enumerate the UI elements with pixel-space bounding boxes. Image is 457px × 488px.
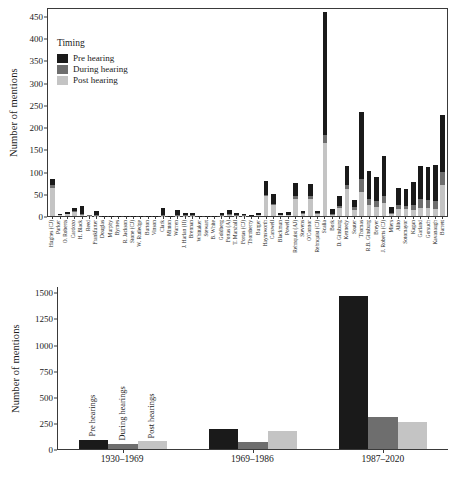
stacked-bar[interactable] <box>426 167 431 216</box>
bottom-chart-x-ticks <box>58 449 448 453</box>
stacked-bar[interactable] <box>433 165 438 216</box>
x-tick <box>71 216 78 219</box>
bar[interactable]: Post hearings <box>138 441 167 449</box>
bar-slot <box>204 9 211 216</box>
bar[interactable] <box>238 442 267 449</box>
bottom-chart-x-axis-labels: 1930–19691969–19861987–2020 <box>57 455 448 465</box>
x-axis-label-text: J. Roberts (CJ) <box>382 220 387 252</box>
y-tick-mark <box>44 83 47 84</box>
stacked-bar[interactable] <box>264 181 269 216</box>
stacked-bar[interactable] <box>352 200 357 216</box>
bar-segment <box>345 189 350 216</box>
x-tick <box>211 216 218 219</box>
stacked-bar[interactable] <box>411 182 416 216</box>
x-axis-label-text: Rehnquist (CJ) <box>315 220 320 253</box>
bottom-y-axis-label: Number of mentions <box>10 287 24 450</box>
x-tick <box>373 216 380 219</box>
x-axis-label: Souter <box>351 220 358 278</box>
x-axis-label-text: Byrnes <box>116 220 121 235</box>
bar-slot <box>285 9 292 216</box>
bar-segment <box>337 208 342 216</box>
bar-slot <box>152 9 159 216</box>
x-tick <box>188 449 318 453</box>
bar-slot <box>432 9 439 216</box>
bar-segment <box>404 189 409 206</box>
x-axis-label: Miers <box>388 220 395 278</box>
bar-segment <box>264 181 269 194</box>
x-axis-label-text: R.B. Ginsburg <box>367 220 372 251</box>
x-tick <box>101 216 108 219</box>
x-tick <box>218 216 225 219</box>
stacked-bar[interactable] <box>330 209 335 216</box>
x-tick <box>49 216 56 219</box>
bar-segment <box>374 207 379 216</box>
stacked-bar[interactable] <box>50 179 55 216</box>
x-axis-label: Reed <box>85 220 92 278</box>
bar-slot <box>388 9 395 216</box>
x-axis-label-text: Carswell <box>271 220 276 239</box>
x-axis-label-text: J. Harlan (II) <box>182 220 187 248</box>
x-tick <box>388 216 395 219</box>
stacked-bar[interactable] <box>382 156 387 216</box>
x-axis-label: Clark <box>159 220 166 278</box>
x-axis-label: Burger <box>255 220 262 278</box>
bar-segment <box>433 165 438 201</box>
stacked-bar[interactable] <box>389 207 394 216</box>
stacked-bar[interactable] <box>374 177 379 216</box>
stacked-bar[interactable] <box>359 112 364 216</box>
x-axis-label-text: Frankfurter <box>93 220 98 245</box>
stacked-bar[interactable] <box>367 171 372 216</box>
x-axis-label-text: O'Connor <box>308 220 313 241</box>
x-tick <box>78 216 85 219</box>
x-axis-label: W. Rutledge <box>137 220 144 278</box>
legend: Timing Pre hearingDuring hearingPost hea… <box>57 39 128 87</box>
bar[interactable] <box>209 429 238 449</box>
bar-segment <box>440 172 445 184</box>
stacked-bar[interactable] <box>271 194 276 216</box>
bar-slot <box>218 9 225 216</box>
bar-group <box>188 287 318 449</box>
x-tick <box>432 216 439 219</box>
bar[interactable] <box>368 417 397 449</box>
x-axis-label-text: Stevens <box>300 220 305 237</box>
bar-group: Pre hearingsDuring hearingsPost hearings <box>58 287 188 449</box>
bar-slot <box>137 9 144 216</box>
bar-segment <box>382 203 387 216</box>
x-tick <box>380 216 387 219</box>
stacked-bar[interactable] <box>80 206 85 216</box>
bar-slot <box>321 9 328 216</box>
bar-fill <box>209 429 238 449</box>
x-tick <box>285 216 292 219</box>
bar[interactable] <box>398 422 427 449</box>
y-tick-mark <box>44 217 47 218</box>
x-axis-label-text: Bork <box>330 220 335 231</box>
stacked-bar[interactable] <box>308 184 313 216</box>
stacked-bar[interactable] <box>161 208 166 216</box>
stacked-bar[interactable] <box>72 208 77 216</box>
stacked-bar[interactable] <box>396 188 401 216</box>
bar[interactable]: Pre hearings <box>79 440 108 449</box>
stacked-bar[interactable] <box>418 166 423 216</box>
bar-segment <box>418 199 423 208</box>
y-tick-mark <box>54 293 57 294</box>
x-axis-label-text: Clark <box>160 220 165 232</box>
stacked-bar[interactable] <box>404 189 409 216</box>
stacked-bar[interactable] <box>337 196 342 216</box>
x-axis-label-text: Haynsworth <box>263 220 268 246</box>
stacked-bar[interactable] <box>440 115 445 216</box>
bar[interactable] <box>268 431 297 449</box>
x-axis-label: B. White <box>211 220 218 278</box>
x-axis-label-text: Barrett <box>441 220 446 235</box>
x-tick <box>277 216 284 219</box>
x-axis-label-text: Stewart <box>204 220 209 236</box>
bar-segment <box>293 183 298 196</box>
stacked-bar[interactable] <box>293 183 298 216</box>
stacked-bar[interactable] <box>323 12 328 216</box>
bar-segment <box>418 208 423 216</box>
x-axis-label-text: Douglas <box>101 220 106 238</box>
bar-segment <box>50 188 55 216</box>
bar-caption: During hearings <box>118 387 126 441</box>
bar[interactable] <box>339 296 368 449</box>
bar-slot <box>189 9 196 216</box>
stacked-bar[interactable] <box>345 166 350 216</box>
